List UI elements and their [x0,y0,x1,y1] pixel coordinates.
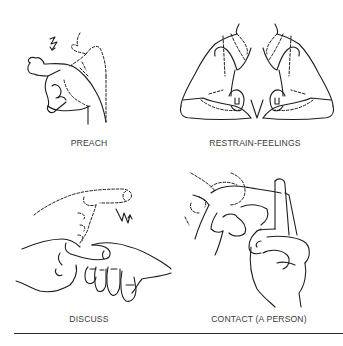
contact-a-person-hands-drawing [171,173,343,313]
sign-illustration-contact-a-person [171,173,343,313]
preach-hand-drawing [0,0,171,150]
sign-illustration-discuss [0,173,171,313]
caption-preach: PREACH [40,138,138,148]
bottom-rule-divider [14,333,343,334]
caption-contact-a-person: CONTACT (A PERSON) [195,314,323,324]
caption-discuss: DISCUSS [50,314,128,324]
caption-restrain-feelings: RESTRAIN-FEELINGS [195,138,315,148]
sign-illustration-preach [0,0,171,150]
discuss-hands-drawing [0,173,171,313]
sign-illustration-restrain-feelings [171,0,343,150]
restrain-feelings-hands-drawing [171,0,343,150]
zigzag-motion-icon [116,209,130,223]
